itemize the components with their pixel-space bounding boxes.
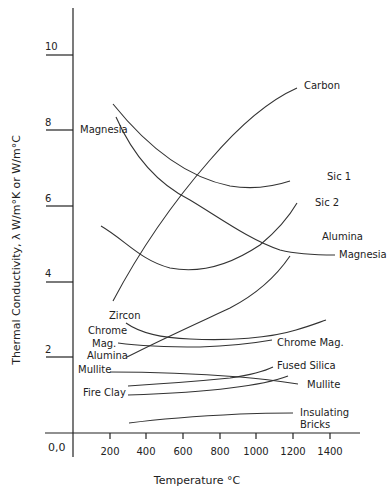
y-tick-8: 8 (45, 117, 51, 128)
label-chrome-left-2: Mag. (92, 338, 116, 349)
label-chrome-left-1: Chrome (88, 325, 127, 336)
x-tick-1200: 1200 (280, 446, 305, 457)
curve-sic1 (113, 104, 290, 188)
label-fire-clay: Fire Clay (83, 387, 126, 398)
y-tick-6: 6 (45, 193, 51, 204)
curve-mullite (110, 372, 298, 384)
x-axis-label: Temperature °C (153, 474, 241, 487)
label-zircon: Zircon (109, 310, 140, 321)
curve-chrome-mag (118, 340, 272, 347)
y-ticks: 10 8 6 4 2 (45, 41, 73, 357)
label-sic2: Sic 2 (315, 197, 339, 208)
y-axis-label: Thermal Conductivity, λ W/m°K or W/m°C (10, 135, 23, 366)
y-tick-4: 4 (45, 268, 51, 279)
label-chrome-right: Chrome Mag. (277, 337, 344, 348)
y-tick-2: 2 (45, 344, 51, 355)
curve-sic2 (101, 203, 297, 270)
label-magnesia-left: Magnesia (80, 124, 128, 135)
label-magnesia-right: Magnesia (339, 249, 387, 260)
curve-magnesia (116, 117, 335, 255)
label-insulating-1: Insulating (300, 407, 349, 418)
curve-carbon (113, 88, 297, 301)
x-tick-1000: 1000 (243, 446, 268, 457)
label-alumina-left: Alumina (87, 350, 128, 361)
label-carbon: Carbon (304, 80, 340, 91)
x-tick-200: 200 (100, 446, 119, 457)
x-tick-800: 800 (210, 446, 229, 457)
label-insulating-2: Bricks (300, 419, 330, 430)
x-ticks: 200 400 600 800 1000 1200 1400 (100, 433, 342, 457)
label-mullite-left: Mullite (78, 364, 111, 375)
thermal-conductivity-chart: 10 8 6 4 2 200 400 600 800 1000 1200 140… (0, 0, 389, 495)
curve-alumina (127, 256, 290, 357)
curve-fused-silica (128, 367, 273, 386)
label-alumina-right: Alumina (322, 231, 363, 242)
label-fused-silica: Fused Silica (277, 360, 336, 371)
x-tick-600: 600 (173, 446, 192, 457)
x-tick-400: 400 (136, 446, 155, 457)
curve-insulating-bricks (129, 413, 293, 423)
x-tick-1400: 1400 (317, 446, 342, 457)
y-tick-10: 10 (45, 41, 58, 52)
label-sic1: Sic 1 (327, 171, 351, 182)
label-mullite-right: Mullite (307, 379, 340, 390)
origin-label: 0,0 (48, 441, 66, 454)
